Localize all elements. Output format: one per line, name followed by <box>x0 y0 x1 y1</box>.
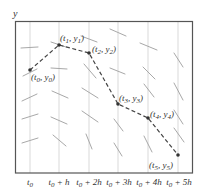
point-labels: (t0, y0) (t1, y1) (t2, y2) (t3, y3) (t4,… <box>31 33 174 172</box>
point-label-4: (t4, y4) <box>150 109 174 121</box>
point-label-2: (t2, y2) <box>92 44 116 56</box>
point-1 <box>57 43 61 47</box>
x-tick-5: t0 + 5h <box>166 177 192 189</box>
x-tick-3: t0 + 3h <box>106 177 132 189</box>
point-5 <box>176 153 180 157</box>
euler-points <box>28 43 180 157</box>
x-tick-1: t0 + h <box>48 177 70 189</box>
point-label-3: (t3, y3) <box>119 93 143 105</box>
point-label-5: (t5, y5) <box>149 160 173 172</box>
point-label-1: (t1, y1) <box>60 33 84 45</box>
y-axis-label: y <box>12 8 18 19</box>
x-tick-4: t0 + 4h <box>136 177 162 189</box>
x-tick-labels: t0 t0 + h t0 + 2h t0 + 3h t0 + 4h t0 + 5… <box>27 177 192 189</box>
point-2 <box>87 51 91 55</box>
x-tick-0: t0 <box>27 177 34 189</box>
euler-method-diagram: y (t0, y0) (t1, y1) (t2, y2) (t3, y3) (t… <box>0 0 205 195</box>
euler-approximation-path <box>30 45 178 155</box>
point-label-0: (t0, y0) <box>31 72 55 84</box>
x-tick-2: t0 + 2h <box>76 177 102 189</box>
